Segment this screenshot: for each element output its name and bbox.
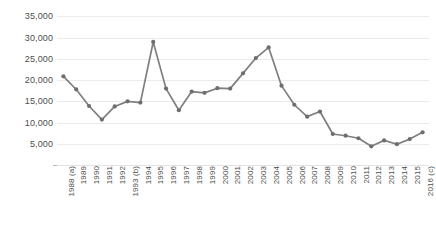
data-point — [305, 115, 309, 119]
data-point — [356, 136, 360, 140]
data-point — [202, 91, 206, 95]
x-axis-tick-label: 2002 — [246, 166, 255, 184]
x-axis-tick-label: 1988 (a) — [67, 166, 76, 197]
data-point — [215, 86, 219, 90]
line-chart: 5,00010,00015,00020,00025,00030,00035,00… — [0, 0, 436, 229]
data-point — [318, 109, 322, 113]
x-axis-tick-label: 2008 — [323, 166, 332, 184]
x-axis-tick-label: 1993 (b) — [131, 166, 140, 197]
x-axis-tick-label: 1989 — [79, 166, 88, 184]
x-axis-tick-label: 2014 — [400, 166, 409, 184]
data-point — [344, 134, 348, 138]
plot-area — [57, 8, 429, 165]
x-axis-tick-label: 1994 — [144, 166, 153, 184]
x-axis-tick-label: 2004 — [272, 166, 281, 184]
y-axis-tick-label: 15,000 — [25, 96, 53, 106]
y-axis-tick-label: 10,000 — [25, 118, 53, 128]
x-axis-tick-label: 2015 — [413, 166, 422, 184]
y-axis-tick-label: 20,000 — [25, 75, 53, 85]
x-axis-tick-label: 2010 — [349, 166, 358, 184]
y-axis-tick-label: 25,000 — [25, 54, 53, 64]
data-point — [395, 142, 399, 146]
x-axis-tick-label: 2009 — [336, 166, 345, 184]
data-point — [254, 56, 258, 60]
x-axis-tick-label: 2006 — [298, 166, 307, 184]
data-point — [228, 87, 232, 91]
x-axis-tick-label: 2007 — [310, 166, 319, 184]
data-point — [74, 87, 78, 91]
data-point — [369, 144, 373, 148]
data-point — [100, 118, 104, 122]
data-point — [331, 132, 335, 136]
y-axis-tick-label: 5,000 — [30, 139, 53, 149]
data-point — [138, 101, 142, 105]
y-axis-tick-labels: 5,00010,00015,00020,00025,00030,00035,00… — [0, 8, 53, 165]
x-axis-tick-label: 1992 — [118, 166, 127, 184]
x-axis-tick-label: 2000 — [221, 166, 230, 184]
data-point — [190, 89, 194, 93]
x-axis-tick-label: 1998 — [195, 166, 204, 184]
series-1-markers — [61, 40, 424, 149]
series-1-line — [63, 42, 422, 146]
data-point — [113, 104, 117, 108]
data-point — [267, 45, 271, 49]
x-axis-tick-label: 2005 — [285, 166, 294, 184]
x-axis-tick-label: 2016 (c) — [426, 166, 435, 196]
data-point — [151, 40, 155, 44]
data-point — [87, 104, 91, 108]
x-axis-tick-label: 1997 — [182, 166, 191, 184]
x-axis-tick-labels: 1988 (a)19891990199119921993 (b)19941995… — [57, 166, 429, 229]
x-axis-tick-label: 2011 — [362, 166, 371, 184]
x-axis-tick-label: 2012 — [374, 166, 383, 184]
data-point — [279, 84, 283, 88]
data-point — [420, 130, 424, 134]
data-point — [241, 71, 245, 75]
x-axis-tick-label: 1991 — [105, 166, 114, 184]
x-axis-tick-label: 2013 — [387, 166, 396, 184]
data-point — [382, 138, 386, 142]
x-axis-tick-label: 1990 — [92, 166, 101, 184]
data-point — [164, 87, 168, 91]
x-axis-tick-label: 2003 — [259, 166, 268, 184]
data-point — [292, 103, 296, 107]
data-point — [125, 99, 129, 103]
x-axis-tick-label: 1995 — [156, 166, 165, 184]
x-axis-tick-label: 2001 — [233, 166, 242, 184]
series-line-group — [57, 8, 429, 165]
data-point — [177, 108, 181, 112]
y-axis-tick-label: 30,000 — [25, 33, 53, 43]
data-point — [61, 74, 65, 78]
y-axis-tick-label: 35,000 — [25, 11, 53, 21]
data-point — [408, 137, 412, 141]
x-axis-tick-label: 1999 — [208, 166, 217, 184]
x-axis-tick-label: 1996 — [169, 166, 178, 184]
